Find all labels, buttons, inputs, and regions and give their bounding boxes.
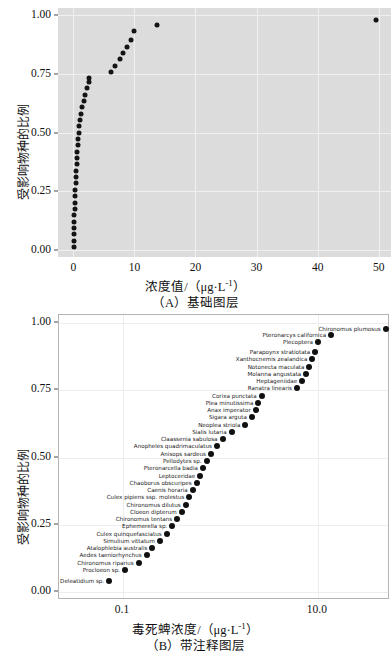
data-point	[164, 531, 170, 537]
species-label: Chaoborus obscuripes	[130, 480, 192, 486]
species-label: Sigara arguta	[209, 414, 247, 420]
data-point	[73, 181, 78, 186]
panel-a-ylabel: 受影响物种的比例	[14, 104, 31, 200]
species-label: Ephemerella sp.	[122, 523, 167, 529]
y-tick-label: 1.00	[31, 316, 51, 328]
data-point	[74, 168, 79, 173]
species-label: Leptoceridae	[159, 473, 195, 479]
species-label: Culex quinquefasciatus	[96, 531, 161, 537]
data-point	[149, 545, 155, 551]
panel-a-caption: （A）基础图层	[0, 292, 391, 311]
y-tick-label: 0.00	[31, 244, 51, 256]
data-point	[74, 162, 79, 167]
data-point	[204, 458, 210, 464]
panel-b: 受影响物种的比例 Chironomus plumosusPteronarcys …	[0, 310, 391, 644]
data-point	[220, 436, 226, 442]
species-label: Simulium vittatum	[103, 538, 155, 544]
gridline-horizontal	[59, 390, 388, 391]
species-label: Corixa punctata	[212, 393, 257, 399]
y-tick-label: 0.25	[31, 185, 51, 197]
data-point	[72, 219, 77, 224]
data-point	[242, 422, 248, 428]
panel-a-xlabel-sup: -1	[225, 278, 233, 288]
panel-b-plot-area: Chironomus plumosusPteronarcys californi…	[58, 314, 389, 599]
species-label: Parapoynx stratiotata	[250, 349, 310, 355]
data-point	[72, 200, 77, 205]
y-tick-label: 0.75	[31, 384, 51, 396]
data-point	[113, 63, 118, 68]
data-point	[125, 44, 130, 49]
species-label: Culex pipiens ssp. molestus	[107, 494, 185, 500]
data-point	[74, 175, 79, 180]
gridline-horizontal	[59, 458, 388, 459]
data-point	[76, 137, 81, 142]
data-point	[374, 18, 379, 23]
panel-b-xlabel-sup: -1	[238, 621, 246, 631]
panel-a: 受影响物种的比例 0.000.250.500.751.00 0102030405…	[0, 0, 391, 300]
gridline-horizontal	[59, 323, 388, 324]
species-label: Claassenia sabulosa	[161, 436, 218, 442]
data-point	[179, 509, 185, 515]
data-point	[108, 70, 113, 75]
species-label: Plea minutissima	[206, 400, 254, 406]
x-tick-label: 30	[251, 261, 263, 273]
gridline-horizontal	[58, 250, 391, 251]
data-point	[75, 156, 80, 161]
x-tick-label: 0	[70, 261, 76, 273]
data-point	[75, 143, 80, 148]
data-point	[122, 567, 128, 573]
data-point	[253, 407, 259, 413]
x-tick-label: 50	[373, 261, 385, 273]
panel-b-caption: （B）带注释图层	[0, 635, 391, 654]
data-point	[71, 232, 76, 237]
gridline-horizontal	[58, 191, 391, 192]
data-point	[197, 473, 203, 479]
data-point	[183, 502, 189, 508]
y-tick-label: 1.00	[31, 9, 51, 21]
x-tick-label: 40	[312, 261, 324, 273]
y-tick-mark	[54, 456, 58, 457]
gridline-vertical	[318, 315, 319, 598]
y-tick-mark	[54, 73, 58, 74]
gridline-horizontal	[59, 592, 388, 593]
data-point	[309, 356, 315, 362]
species-label: Pteronarcys californica	[263, 332, 327, 338]
data-point	[190, 487, 196, 493]
gridline-horizontal	[59, 525, 388, 526]
data-point	[132, 29, 137, 34]
data-point	[174, 516, 180, 522]
data-point	[249, 414, 255, 420]
data-point	[200, 465, 206, 471]
x-tick-label: 20	[190, 261, 202, 273]
y-tick-mark	[54, 590, 58, 591]
data-point	[75, 149, 80, 154]
gridline-horizontal	[58, 133, 391, 134]
data-point	[294, 385, 300, 391]
species-label: Anax imperator	[207, 407, 251, 413]
y-tick-label: 0.25	[31, 518, 51, 530]
data-point	[87, 76, 92, 81]
data-point	[73, 187, 78, 192]
gridline-horizontal	[58, 15, 391, 16]
data-point	[76, 130, 81, 135]
data-point	[72, 225, 77, 230]
species-label: Ranatra linearis	[248, 385, 292, 391]
data-point	[121, 51, 126, 56]
species-label: Aedes taeniorhynchus	[80, 552, 142, 558]
data-point	[71, 244, 76, 249]
data-point	[315, 339, 321, 345]
data-point	[117, 57, 122, 62]
species-label: Chironomus plumosus	[318, 326, 380, 332]
data-point	[73, 194, 78, 199]
data-point	[81, 99, 86, 104]
x-tick-label: 0.1	[115, 603, 129, 615]
species-label: Sialis lutaria	[192, 429, 226, 435]
y-tick-label: 0.75	[31, 68, 51, 80]
species-label: Procloeon sp.	[83, 567, 120, 573]
data-point	[169, 523, 175, 529]
species-label: Chironomus riparius	[77, 560, 133, 566]
species-label: Neoplea striola	[198, 422, 240, 428]
data-point	[306, 364, 312, 370]
data-point	[78, 111, 83, 116]
data-point	[383, 326, 389, 332]
